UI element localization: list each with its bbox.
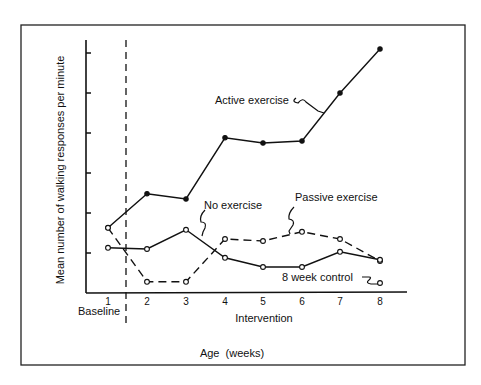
- data-point: [300, 139, 304, 143]
- x-tick-label: 6: [299, 296, 305, 307]
- plot-series: [106, 47, 383, 286]
- data-point: [378, 47, 382, 51]
- no-exercise-arrow: [201, 210, 206, 236]
- control-arrow: [362, 277, 378, 284]
- data-point: [223, 136, 227, 140]
- x-tick-label: 5: [260, 296, 266, 307]
- x-tick-label: 7: [337, 296, 343, 307]
- data-point: [261, 141, 265, 145]
- data-point: [261, 239, 266, 244]
- data-point: [338, 237, 343, 242]
- x-tick-label: 8: [377, 296, 383, 307]
- data-point: [106, 225, 111, 230]
- chart-figure: 12345678 Active exercise Passive exercis…: [0, 0, 481, 385]
- active-arrow: [294, 98, 324, 113]
- data-point: [300, 265, 305, 270]
- data-point: [184, 197, 188, 201]
- x-tick-label: 4: [222, 296, 228, 307]
- data-point: [145, 247, 150, 252]
- data-point: [338, 249, 343, 254]
- data-point: [338, 91, 342, 95]
- label-8-week-control: 8 week control: [282, 271, 353, 283]
- x-axis-line: [86, 292, 407, 293]
- x-axis-title: Age (weeks): [200, 347, 264, 359]
- axes: 12345678: [86, 40, 407, 307]
- label-passive-exercise: Passive exercise: [295, 191, 378, 203]
- data-point: [223, 237, 228, 242]
- data-point: [106, 245, 111, 250]
- data-point: [145, 192, 149, 196]
- x-tick-label: 3: [183, 296, 189, 307]
- label-baseline: Baseline: [78, 305, 120, 317]
- x-tick-label: 2: [144, 296, 150, 307]
- x-axis-tick-labels: 12345678: [105, 296, 383, 307]
- data-point: [184, 227, 189, 232]
- data-point: [145, 279, 150, 284]
- label-intervention: Intervention: [235, 312, 292, 324]
- label-no-exercise: No exercise: [204, 199, 262, 211]
- label-active-exercise: Active exercise: [215, 94, 289, 106]
- y-axis-title: Mean number of walking responses per min…: [54, 56, 66, 285]
- data-point: [261, 265, 266, 270]
- series-no-exercise: [106, 227, 383, 269]
- series-8-week-control: [378, 281, 383, 286]
- passive-arrow: [289, 207, 294, 234]
- data-point: [223, 255, 228, 260]
- data-point: [378, 257, 383, 262]
- data-point: [184, 279, 189, 284]
- data-point: [300, 229, 305, 234]
- data-point: [378, 281, 383, 286]
